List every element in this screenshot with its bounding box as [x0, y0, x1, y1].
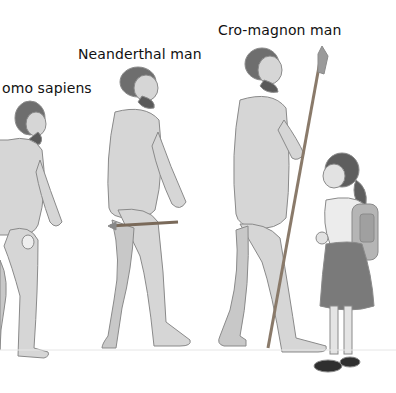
neanderthal-figure — [102, 67, 190, 348]
cro-magnon-figure — [219, 46, 328, 352]
label-neanderthal-man: Neanderthal man — [78, 46, 202, 62]
evolution-illustration: omo sapiens Neanderthal man Cro-magnon m… — [0, 0, 396, 393]
label-homo-sapiens: omo sapiens — [2, 80, 92, 96]
label-cro-magnon-man: Cro-magnon man — [218, 22, 341, 38]
schoolgirl-figure — [314, 153, 378, 372]
homo-sapiens-figure — [0, 101, 62, 358]
